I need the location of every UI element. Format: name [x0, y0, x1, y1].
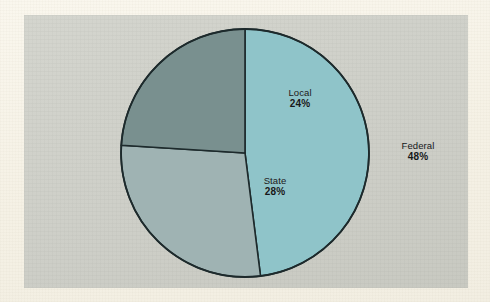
pie-slice-local[interactable] [121, 29, 245, 153]
pie-chart: Federal 48% State 28% Local 24% [121, 29, 369, 277]
pie-label-federal: Federal 48% [370, 140, 466, 163]
pie-label-federal-name: Federal [370, 140, 466, 151]
pie-label-local: Local 24% [260, 87, 340, 110]
pie-chart-svg [121, 29, 369, 277]
pie-slice-federal[interactable] [245, 29, 369, 276]
pie-label-state-value: 28% [235, 186, 315, 198]
pie-label-local-name: Local [260, 87, 340, 98]
pie-slice-state[interactable] [121, 145, 261, 277]
chart-panel: Federal 48% State 28% Local 24% [24, 15, 468, 288]
pie-label-federal-value: 48% [370, 151, 466, 163]
pie-label-state-name: State [235, 175, 315, 186]
pie-chart-screenshot: Federal 48% State 28% Local 24% [0, 0, 490, 302]
pie-label-state: State 28% [235, 175, 315, 198]
pie-label-local-value: 24% [260, 98, 340, 110]
